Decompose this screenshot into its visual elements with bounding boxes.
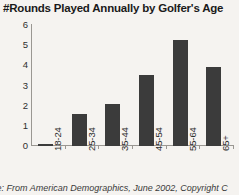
x-tick-label: 18-24 <box>52 127 63 151</box>
bar <box>173 40 188 146</box>
x-tick-label: 25-34 <box>86 127 97 151</box>
bar <box>139 75 154 146</box>
y-tick-label: 2 <box>2 101 28 111</box>
x-tick-mark <box>199 146 200 149</box>
y-tick-label: 3 <box>2 81 28 91</box>
bar <box>72 114 87 146</box>
bar-slot <box>199 25 233 146</box>
y-tick-label: 4 <box>2 60 28 70</box>
x-tick-mark <box>65 146 66 149</box>
y-axis: 0123456 <box>0 0 28 195</box>
x-tick-label: 45-54 <box>153 127 164 151</box>
y-tick-label: 5 <box>2 40 28 50</box>
y-tick-label: 0 <box>2 141 28 151</box>
x-tick-mark <box>132 146 133 149</box>
x-tick-mark <box>233 146 234 149</box>
x-tick-mark <box>166 146 167 149</box>
x-tick-label: 35-44 <box>119 127 130 151</box>
page-title: #Rounds Played Annually by Golfer's Age <box>3 2 239 14</box>
x-tick-mark <box>98 146 99 149</box>
x-tick-label: 65+ <box>220 135 231 151</box>
bar <box>38 144 53 146</box>
source-note: ce: From American Demographics, June 200… <box>0 183 239 193</box>
x-tick-label: 55-64 <box>187 127 198 151</box>
chart-figure: #Rounds Played Annually by Golfer's Age … <box>0 0 239 195</box>
y-tick-label: 6 <box>2 20 28 30</box>
y-tick-label: 1 <box>2 121 28 131</box>
